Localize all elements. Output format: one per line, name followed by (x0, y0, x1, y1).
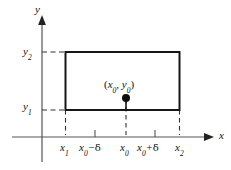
paren-close: ) (130, 78, 134, 90)
point-x-subscript: 0 (113, 86, 117, 95)
x-axis-label: x (219, 130, 224, 141)
x0-subscript: 0 (125, 149, 129, 158)
x-tick-label-x1: x1 (60, 142, 69, 153)
point-y-subscript: 0 (127, 86, 131, 95)
y1-subscript: 1 (28, 108, 32, 117)
x1-subscript: 1 (65, 149, 69, 158)
x-axis-arrowhead (204, 133, 214, 141)
point-y-base: y (122, 78, 127, 90)
x0m-subscript: 0 (84, 149, 88, 158)
minus-operator: − (88, 141, 95, 153)
coordinate-comma: , (116, 78, 119, 90)
y-axis-label: y (35, 4, 40, 15)
y-tick-label-y2: y2 (23, 46, 32, 57)
math-diagram: y x y2 y1 x1 x0−δ x0 x0+δ x2 (x0, y0) (0, 0, 231, 170)
point-marker (122, 94, 130, 102)
point-coordinate-label: (x0, y0) (104, 79, 134, 90)
x-tick-label-x2: x2 (175, 142, 184, 153)
delta-symbol-2: δ (153, 142, 159, 153)
x0p-subscript: 0 (142, 149, 146, 158)
plus-operator: + (146, 141, 153, 153)
y-axis-arrowhead (38, 15, 46, 25)
delta-symbol: δ (95, 142, 101, 153)
point-x-base: x (108, 78, 113, 90)
y-tick-label-y1: y1 (23, 101, 32, 112)
x-tick-label-x0: x0 (120, 142, 129, 153)
x2-subscript: 2 (180, 149, 184, 158)
x-tick-label-x0-minus-delta: x0−δ (79, 142, 101, 153)
x-tick-label-x0-plus-delta: x0+δ (137, 142, 159, 153)
y2-subscript: 2 (28, 53, 32, 62)
